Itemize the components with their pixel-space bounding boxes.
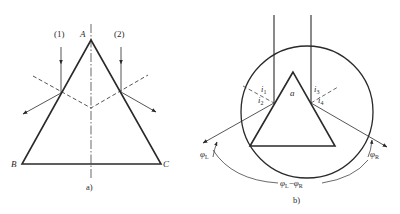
difference-label: φL−φR	[280, 178, 303, 189]
angle-i1: i1	[261, 84, 266, 95]
goniometer-circle	[241, 46, 373, 178]
phi-l-label: φL	[200, 149, 209, 160]
caption-a: a)	[86, 182, 93, 192]
prism-diagram: (1) (2) A B C a) a i1 i2 i3 i4 φL φR	[0, 0, 400, 214]
angle-i4: i4	[318, 95, 323, 106]
angle-i3: i3	[314, 84, 319, 95]
vertex-label-c: C	[163, 159, 170, 169]
surface-normals	[33, 75, 148, 108]
panel-a: (1) (2) A B C a)	[11, 24, 170, 192]
ray-label-1: (1)	[54, 29, 65, 39]
vertex-label-a: A	[79, 29, 86, 39]
vertex-label-b: B	[11, 159, 17, 169]
difference-arc	[213, 150, 278, 183]
caption-b: b)	[293, 195, 300, 205]
difference-arc-right	[322, 160, 368, 183]
phi-r-label: φR	[370, 149, 379, 160]
apex-angle-label: a	[290, 88, 295, 98]
ray-label-2: (2)	[114, 29, 125, 39]
prism-triangle-a	[22, 40, 161, 164]
panel-b: a i1 i2 i3 i4 φL φR φL−φR b)	[200, 15, 387, 205]
